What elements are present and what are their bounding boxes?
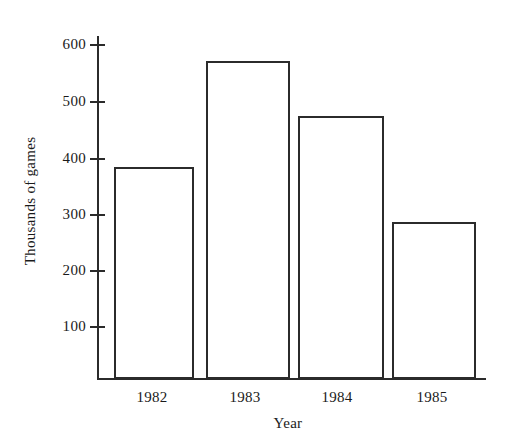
x-tick-label-1983: 1983 bbox=[200, 388, 290, 406]
bar-1983 bbox=[206, 61, 290, 379]
y-tick-300 bbox=[90, 214, 105, 216]
y-axis-title: Thousands of games bbox=[21, 101, 39, 301]
bar-1985 bbox=[392, 222, 476, 379]
x-tick-label-1984: 1984 bbox=[292, 388, 382, 406]
y-tick-400 bbox=[90, 158, 105, 160]
x-tick-label-1982: 1982 bbox=[107, 388, 197, 406]
x-tick-label-1985: 1985 bbox=[387, 388, 477, 406]
y-tick-label-400: 400 bbox=[44, 151, 86, 166]
y-tick-label-200: 200 bbox=[44, 263, 86, 278]
y-tick-label-500: 500 bbox=[44, 94, 86, 109]
y-tick-label-600: 600 bbox=[44, 37, 86, 52]
y-tick-label-300: 300 bbox=[44, 207, 86, 222]
x-axis-title: Year bbox=[243, 414, 333, 432]
y-tick-label-100: 100 bbox=[44, 319, 86, 334]
y-axis-line bbox=[97, 36, 99, 380]
bar-1982 bbox=[114, 167, 194, 379]
bar-1984 bbox=[298, 116, 384, 379]
y-tick-100 bbox=[90, 326, 105, 328]
y-tick-500 bbox=[90, 101, 105, 103]
y-tick-600 bbox=[90, 44, 105, 46]
bar-chart: 600 500 400 300 200 100 1982 1983 1984 1… bbox=[0, 0, 506, 444]
y-tick-200 bbox=[90, 270, 105, 272]
